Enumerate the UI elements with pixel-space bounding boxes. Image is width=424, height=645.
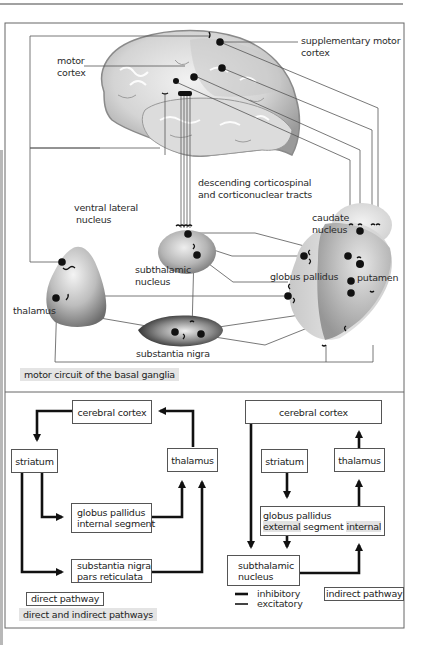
label-substantia-nigra: substantia nigra — [136, 348, 210, 359]
label-motor-cortex-line2: cortex — [57, 67, 86, 78]
direct-gpi-box: globus pallidus internal segment — [71, 503, 152, 533]
label-globus-pallidus: globus pallidus — [270, 271, 338, 282]
direct-striatum-label: striatum — [15, 456, 53, 467]
indirect-striatum-box: striatum — [261, 449, 308, 473]
label-subthalamic-nucleus-line2: nucleus — [135, 276, 170, 287]
direct-gpi-label-line2: internal segment — [77, 518, 155, 529]
label-supplementary-motor-cortex-line2: cortex — [301, 47, 330, 58]
indirect-striatum-label: striatum — [265, 456, 303, 467]
label-caudate-nucleus-line2: nucleus — [312, 224, 347, 235]
direct-thalamus-box: thalamus — [167, 448, 218, 472]
direct-pathway-arrows — [22, 411, 202, 572]
indirect-thalamus-label: thalamus — [338, 455, 381, 466]
direct-snr-box: substantia nigra pars reticulata — [71, 559, 152, 583]
direct-snr-label-line2: pars reticulata — [77, 571, 143, 582]
page-edge-shadow — [0, 150, 3, 645]
label-caudate-nucleus: caudate — [312, 212, 349, 223]
direct-cerebral-cortex-label: cerebral cortex — [78, 407, 147, 418]
label-ventral-lateral-nucleus: ventral lateral — [74, 202, 138, 213]
gp-segment-label: segment — [303, 521, 343, 532]
indirect-stn-label-line2: nucleus — [238, 571, 273, 582]
gp-external-segment-label: external — [263, 521, 301, 532]
label-putamen: putamen — [357, 272, 398, 283]
substantia-nigra-shape — [138, 316, 223, 347]
label-motor-cortex: motor — [57, 55, 85, 66]
direct-gpi-label: globus pallidus — [77, 507, 145, 518]
indirect-gp-label: globus pallidus — [263, 510, 331, 521]
label-descending-tracts: descending corticospinal — [198, 177, 311, 188]
indirect-pathway-arrows — [251, 423, 359, 573]
gp-internal-segment-label: internal — [346, 521, 381, 532]
label-descending-tracts-line2: and corticonuclear tracts — [198, 189, 312, 200]
indirect-subthalamic-box: subthalamic nucleus — [227, 555, 300, 586]
label-thalamus: thalamus — [13, 305, 56, 316]
direct-cerebral-cortex-box: cerebral cortex — [72, 400, 152, 424]
legend-excitatory-label: excitatory — [257, 598, 303, 609]
direct-pathway-tag: direct pathway — [26, 592, 104, 606]
label-subthalamic-nucleus: subthalamic — [135, 264, 191, 275]
direct-striatum-box: striatum — [11, 449, 58, 473]
figure-graphics — [0, 0, 424, 645]
indirect-cerebral-cortex-box: cerebral cortex — [245, 400, 382, 424]
direct-snr-label: substantia nigra — [77, 560, 151, 571]
bottom-panel-caption: direct and indirect pathways — [19, 608, 157, 621]
indirect-pathway-tag: indirect pathway — [324, 587, 404, 601]
indirect-gp-segments: external segment internal — [263, 521, 381, 532]
indirect-thalamus-box: thalamus — [334, 448, 385, 472]
indirect-stn-label: subthalamic — [238, 560, 294, 571]
label-ventral-lateral-nucleus-line2: nucleus — [76, 214, 111, 225]
direct-thalamus-label: thalamus — [171, 455, 214, 466]
indirect-cerebral-cortex-label: cerebral cortex — [279, 407, 348, 418]
label-supplementary-motor-cortex: supplementary motor — [301, 35, 400, 46]
indirect-globus-pallidus-box: globus pallidus external segment interna… — [260, 506, 385, 536]
top-panel-caption: motor circuit of the basal ganglia — [20, 368, 179, 381]
